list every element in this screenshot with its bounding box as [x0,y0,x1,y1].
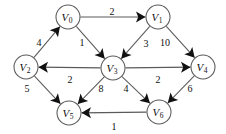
edge-weight-v0-v3: 1 [80,37,85,48]
edge-weight-v6-v5: 1 [112,121,117,132]
node-subscript-v5: 5 [70,112,74,121]
node-subscript-v3: 3 [114,67,118,76]
graph-canvas: V0V1V2V3V4V5V6 2413102258461 [0,0,226,134]
edge-weight-v3-v6: 4 [124,83,129,94]
edge-weight-v2-v5: 5 [25,83,30,94]
graph-edge-v3-to-v4 [126,67,191,68]
graph-edge-v6-to-v5 [82,112,147,113]
directed-weighted-graph-figure: V0V1V2V3V4V5V6 2413102258461 [0,0,226,134]
graph-node-v2[interactable]: V2 [14,55,38,79]
graph-node-v6[interactable]: V6 [147,100,171,124]
arrowhead-icon-v2-to-v0 [50,27,60,38]
edge-weight-v3-v2: 2 [68,74,73,85]
graph-node-v0[interactable]: V0 [56,5,80,29]
edge-weight-v3-v4: 2 [156,74,161,85]
edge-weight-v0-v1: 2 [110,6,115,17]
graph-edge-v3-to-v2 [39,67,101,68]
edge-weight-v1-v4: 10 [160,37,170,48]
graph-node-v4[interactable]: V4 [191,55,215,79]
edge-weight-v2-v0: 4 [37,37,42,48]
node-subscript-v6: 6 [160,111,164,120]
edge-weight-v1-v3: 3 [144,38,149,49]
node-subscript-v0: 0 [69,16,73,25]
node-subscript-v4: 4 [204,66,208,75]
edge-weight-v3-v5: 8 [99,83,104,94]
node-subscript-v2: 2 [27,66,31,75]
graph-node-v1[interactable]: V1 [146,5,170,29]
graph-node-v5[interactable]: V5 [57,101,81,125]
graph-node-v3[interactable]: V3 [101,56,125,80]
edge-weight-v4-v6: 6 [188,83,193,94]
arrowhead-icon-v1-to-v3 [121,48,131,59]
node-subscript-v1: 1 [159,16,163,25]
arrowhead-icon-v0-to-v3 [94,48,104,59]
